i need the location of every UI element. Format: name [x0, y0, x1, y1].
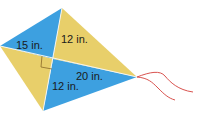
kite-diagram: 15 in. 12 in. 20 in. 12 in.: [0, 0, 207, 118]
label-top-right: 12 in.: [61, 33, 88, 45]
label-bottom-left: 12 in.: [52, 80, 79, 92]
label-top-left: 15 in.: [16, 39, 43, 51]
kite-string-upper: [137, 72, 193, 92]
label-bottom-right: 20 in.: [76, 70, 103, 82]
